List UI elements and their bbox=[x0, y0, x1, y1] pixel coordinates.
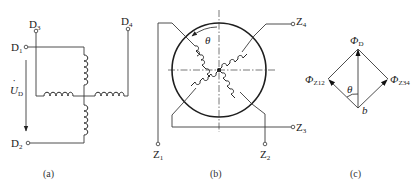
label-theta-b: θ bbox=[205, 34, 211, 46]
terminal-d2[interactable] bbox=[26, 141, 30, 145]
coil-upper-vertical bbox=[84, 55, 88, 85]
label-d1: D1 bbox=[11, 41, 23, 55]
wire-z2 bbox=[240, 92, 265, 142]
label-phi-z34: ΦZ34 bbox=[390, 73, 410, 87]
label-d2: D2 bbox=[11, 137, 23, 151]
wire-z4 bbox=[242, 24, 291, 52]
panel-b: θ Z4 Z3 Z1 Z2 (b) bbox=[153, 10, 307, 180]
coil-lower-right bbox=[219, 70, 235, 98]
label-d3: D3 bbox=[29, 18, 41, 32]
resolver-diagram: D3 D1 D4 D2 UD · (a) θ bbox=[0, 0, 419, 188]
label-theta-c: θ bbox=[347, 83, 353, 95]
caption-c: (c) bbox=[350, 168, 361, 180]
label-z2: Z2 bbox=[260, 148, 271, 162]
edge-left-top bbox=[328, 49, 358, 79]
label-origin-b: b bbox=[362, 104, 368, 116]
label-phi-z12: ΦZ12 bbox=[305, 73, 325, 87]
label-voltage-dot: · bbox=[13, 75, 16, 86]
panel-c: ΦD ΦZ12 ΦZ34 θ b (c) bbox=[305, 34, 410, 180]
terminal-z1[interactable] bbox=[156, 142, 160, 146]
label-z1: Z1 bbox=[153, 148, 164, 162]
coil-lower-vertical bbox=[84, 105, 88, 135]
label-voltage-ud: UD bbox=[10, 84, 23, 98]
caption-b: (b) bbox=[210, 168, 222, 180]
winding-ul-lead bbox=[187, 38, 195, 46]
label-phi-d: ΦD bbox=[350, 34, 363, 48]
coil-right-horizontal bbox=[95, 92, 124, 96]
terminal-d1[interactable] bbox=[24, 45, 28, 49]
label-d4: D4 bbox=[121, 15, 133, 29]
panel-a: D3 D1 D4 D2 UD · (a) bbox=[10, 15, 133, 180]
caption-a: (a) bbox=[43, 168, 54, 180]
terminal-z4[interactable] bbox=[291, 22, 295, 26]
label-z4: Z4 bbox=[296, 15, 307, 29]
coil-upper-right bbox=[219, 54, 247, 70]
coil-upper-left bbox=[195, 46, 210, 77]
coil-lower-left bbox=[191, 70, 219, 86]
terminal-z2[interactable] bbox=[263, 142, 267, 146]
edge-right-top bbox=[358, 49, 388, 79]
terminal-z3[interactable] bbox=[291, 125, 295, 129]
label-z3: Z3 bbox=[296, 121, 307, 135]
coil-left-horizontal bbox=[44, 92, 73, 96]
